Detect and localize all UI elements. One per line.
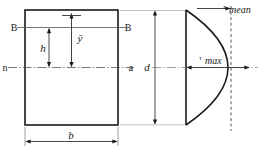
label-dimension-d: d [144,61,150,73]
tau-max-symbol: τ [199,54,202,62]
label-dimension-h: h [40,42,46,54]
shear-stress-diagram: B B n a h ȳ b d τ mean τ max [0,0,265,164]
diagram-canvas: B B n a h ȳ b d τ mean τ max [0,0,265,164]
label-tau-max: τ max [199,54,222,66]
tau-mean-symbol: τ [223,3,226,11]
label-section-b-right: B [125,22,132,33]
dimension-tau-max [186,65,250,69]
label-neutral-axis-a: a [129,62,134,73]
tau-max-subscript: max [205,55,222,66]
tau-mean-subscript: mean [229,4,251,15]
dimension-h [47,28,51,68]
label-section-b-left: B [11,22,18,33]
label-dimension-b: b [68,129,74,141]
label-neutral-axis-n: n [3,62,8,73]
label-dimension-y-bar: ȳ [77,32,84,44]
